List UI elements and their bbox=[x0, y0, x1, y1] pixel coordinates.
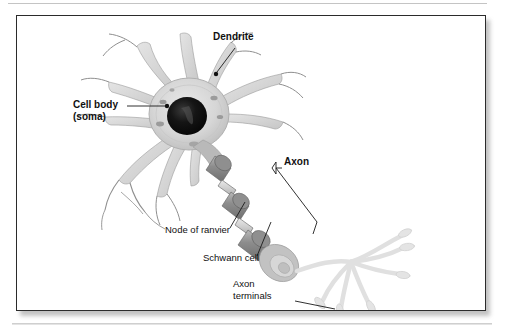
label-axon-terminals-line2: terminals bbox=[233, 290, 272, 301]
top-divider bbox=[8, 3, 487, 4]
axon-terminal-bouton bbox=[396, 271, 411, 280]
neuron-illustration bbox=[17, 16, 486, 311]
bottom-divider-highlight bbox=[12, 324, 492, 325]
axon-terminals-group bbox=[297, 227, 415, 311]
neuron-figure-frame: Dendrite Cell body(soma) Axon Node of ra… bbox=[16, 15, 486, 311]
label-node-of-ranvier: Node of ranvier bbox=[165, 224, 230, 236]
label-schwann-cell: Schwann cell bbox=[203, 252, 259, 264]
label-dendrite: Dendrite bbox=[213, 31, 254, 43]
myelin-sheath-segments bbox=[206, 152, 306, 289]
label-axon-terminals: Axonterminals bbox=[233, 278, 272, 301]
cell-body-soma bbox=[149, 78, 229, 150]
leader-axon-bracket bbox=[272, 162, 282, 174]
axon-terminal-bouton bbox=[399, 242, 415, 251]
label-axon-terminals-line1: Axon bbox=[233, 278, 255, 289]
page-root: Dendrite Cell body(soma) Axon Node of ra… bbox=[0, 0, 505, 333]
label-cell-body-line2: (soma) bbox=[73, 111, 106, 122]
label-axon: Axon bbox=[284, 156, 309, 168]
axon-terminal-bouton bbox=[397, 227, 413, 239]
label-cell-body: Cell body(soma) bbox=[73, 99, 118, 122]
label-cell-body-line1: Cell body bbox=[73, 99, 118, 110]
leader-axon bbox=[276, 168, 317, 234]
